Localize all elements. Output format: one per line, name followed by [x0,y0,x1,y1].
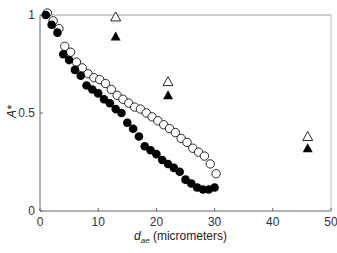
data-point-triangle-filled [303,143,313,152]
data-point-circle-filled [175,168,184,177]
data-point-circle-open [200,152,208,160]
x-tick-label: 10 [92,215,106,229]
data-point-triangle-open [111,12,121,21]
data-point-triangle-filled [163,90,173,99]
scatter-chart: 01020304050 00.51 dae (micrometers) A* [0,0,337,253]
data-point-circle-filled [76,71,85,80]
data-point-circle-filled [210,183,219,192]
data-point-circle-filled [47,21,56,30]
data-point-circle-filled [135,132,144,141]
data-point-triangle-open [163,77,173,86]
x-tick-label: 40 [266,215,280,229]
x-tick-label: 20 [150,215,164,229]
y-tick-label: 0 [28,204,35,218]
data-points [42,9,313,194]
data-point-circle-filled [65,56,74,65]
data-point-triangle-filled [111,32,121,41]
y-ticks: 00.51 [18,8,43,218]
data-point-circle-open [206,160,214,168]
x-axis-label: dae (micrometers) [134,229,227,245]
data-point-circle-open [66,48,74,56]
data-point-circle-filled [129,124,138,133]
x-tick-label: 50 [324,215,337,229]
x-tick-label: 0 [37,215,44,229]
data-point-circle-filled [42,11,51,20]
x-tick-label: 30 [208,215,222,229]
y-axis-label: A* [5,105,19,119]
data-point-circle-open [212,170,220,178]
y-tick-label: 1 [28,8,35,22]
y-tick-label: 0.5 [18,106,35,120]
data-point-circle-filled [117,109,126,118]
data-point-triangle-open [303,132,313,141]
data-point-circle-filled [53,28,62,37]
